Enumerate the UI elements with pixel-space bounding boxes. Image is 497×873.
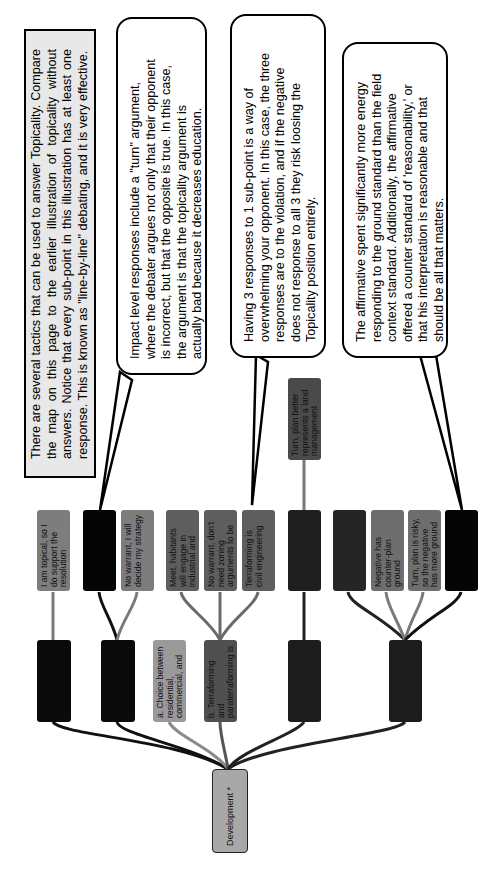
- callout-three-responses: Having 3 responses to 1 sub-point is a w…: [230, 14, 326, 358]
- node-no-warrant-strategy[interactable]: No warrant, I will decide my strategy: [121, 510, 154, 591]
- node-terraforming-paraterraforming[interactable]: b. Terraforming and paraterraforming is: [204, 640, 237, 722]
- callout-impact-turn: Impact level responses include a "turn" …: [116, 17, 207, 375]
- intro-note: There are several tactics that can be us…: [24, 29, 96, 478]
- node-level1-6[interactable]: [389, 640, 422, 722]
- node-development-root[interactable]: Development *: [212, 769, 248, 853]
- node-dark-3[interactable]: [333, 510, 366, 591]
- callout-three-responses-text: Having 3 responses to 1 sub-point is a w…: [242, 42, 320, 342]
- node-counter-plan-ground[interactable]: Negative has counter-plan ground: [371, 510, 404, 591]
- node-level1-1[interactable]: [37, 640, 71, 722]
- node-turn-plan-risky[interactable]: Turn, plan is risky, so the negative has…: [408, 510, 441, 591]
- intro-note-text: There are several tactics that can be us…: [29, 49, 91, 459]
- node-dark-1[interactable]: [83, 510, 116, 591]
- node-terraforming-civil[interactable]: Terraforming is civil engineering: [242, 510, 275, 591]
- callout-ground-standard: The affirmative spent significantly more…: [342, 42, 448, 358]
- node-dark-2[interactable]: [288, 510, 321, 591]
- node-no-warrant-zoning[interactable]: No warrant, don't need zoning arguments …: [204, 510, 237, 591]
- node-level1-5[interactable]: [288, 640, 321, 722]
- node-i-am-topical[interactable]: I am topical, so I do support the resolu…: [37, 510, 70, 591]
- node-turn-land-management[interactable]: Turn, plan better represents a land mana…: [288, 378, 321, 460]
- callout-ground-text: The affirmative spent significantly more…: [354, 72, 447, 342]
- callout-impact-text: Impact level responses include a "turn" …: [128, 59, 206, 359]
- node-choice-between[interactable]: a. Choice between residential, commercia…: [153, 640, 186, 722]
- node-meet-habitants[interactable]: Meet, habitants will engage in industria…: [166, 510, 199, 591]
- node-level1-2[interactable]: [101, 640, 135, 722]
- node-dark-4[interactable]: [445, 510, 478, 591]
